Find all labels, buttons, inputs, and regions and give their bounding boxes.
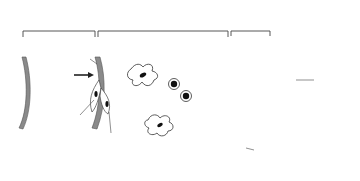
endothelial-nucleus	[94, 91, 97, 97]
lymphocytes	[169, 79, 192, 102]
pericyte-leader	[109, 112, 111, 133]
capillary-bracket	[23, 31, 95, 37]
pericyte-nucleus	[105, 101, 108, 107]
peri-capillary-bracket	[98, 31, 228, 37]
leader-lines	[80, 59, 314, 150]
capillary-left-wall	[19, 57, 30, 129]
epithelial-barrier-bracket	[231, 31, 270, 36]
interconnecting-leader	[246, 148, 254, 150]
region-brackets	[23, 31, 270, 37]
antigen-arrow-icon	[74, 72, 94, 78]
thymus-blood-barrier-diagram	[0, 0, 360, 181]
